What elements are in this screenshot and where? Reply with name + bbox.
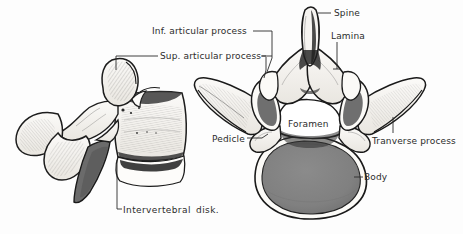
- label-spine: Spine: [334, 8, 360, 18]
- label-inferior-articular-process: Inf. articular process: [152, 26, 247, 36]
- label-body: Body: [364, 172, 387, 182]
- label-lamina: Lamina: [331, 31, 365, 41]
- label-superior-articular-process: Sup. articular process: [160, 51, 261, 61]
- label-foramen: Foramen: [288, 119, 329, 129]
- superior-spinous-process: [299, 7, 321, 70]
- lateral-view-vertebra: [16, 58, 186, 202]
- label-transverse-process: Tranverse process: [372, 136, 456, 146]
- anatomy-figure: Inf. articular process Sup. articular pr…: [0, 0, 463, 234]
- label-intervertebral-disk: Intervertebral disk.: [123, 205, 219, 215]
- label-pedicle: Pedicle: [212, 134, 245, 144]
- superior-view-vertebra: [194, 7, 425, 219]
